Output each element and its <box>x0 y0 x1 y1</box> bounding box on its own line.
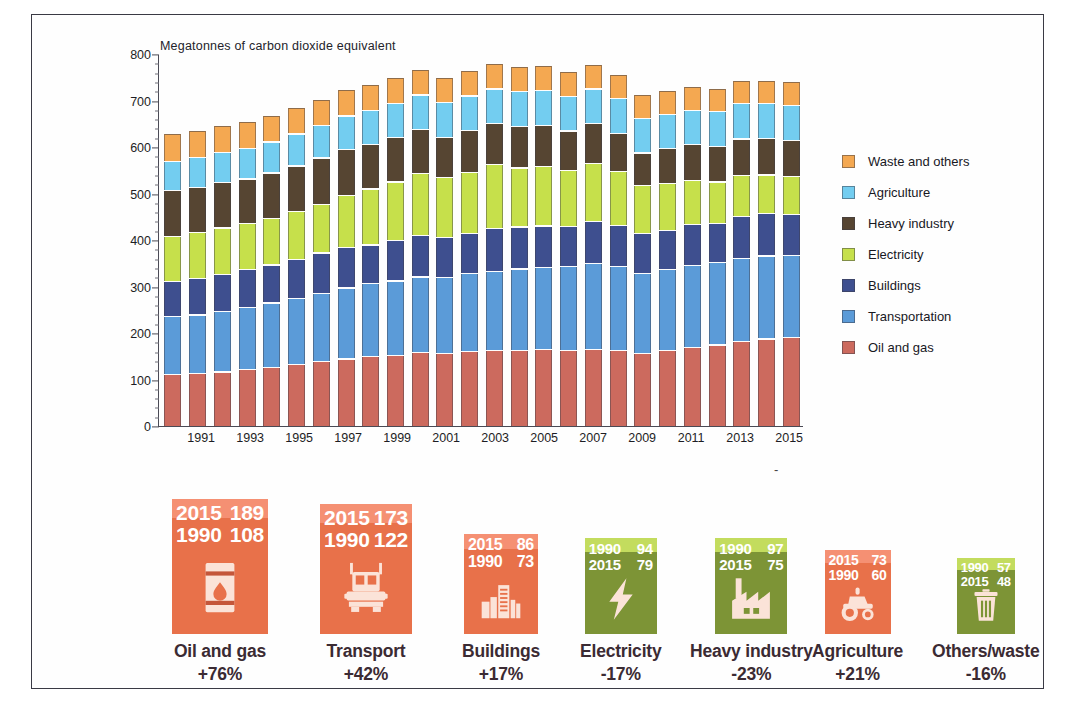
y-tick-label: 200 <box>130 327 151 341</box>
bar-2004[interactable] <box>511 67 528 426</box>
bar-1991[interactable] <box>189 131 206 425</box>
y-tick-label: 500 <box>130 188 151 202</box>
bar-segment <box>511 169 528 227</box>
bar-segment <box>684 87 701 110</box>
bar-segment <box>659 91 676 114</box>
bar-segment <box>338 196 355 247</box>
bar-segment <box>239 149 256 178</box>
bar-segment <box>659 149 676 183</box>
sector-card[interactable]: 201586199073 Buildings+17% <box>462 534 540 685</box>
bar-2012[interactable] <box>709 89 726 426</box>
legend-item[interactable]: Buildings <box>842 270 1042 301</box>
tile-value-row: 199073 <box>468 554 534 571</box>
bar-1997[interactable] <box>338 90 355 425</box>
sector-card-name: Oil and gas <box>174 641 266 662</box>
bar-segment <box>239 270 256 307</box>
legend-label: Buildings <box>868 278 921 293</box>
buildings-icon <box>478 572 524 628</box>
bar-2006[interactable] <box>560 72 577 426</box>
bar-segment <box>387 138 404 181</box>
sector-card[interactable]: 20151891990108 Oil and gas+76% <box>172 499 268 685</box>
legend-label: Waste and others <box>868 154 969 169</box>
bar-segment <box>634 186 651 233</box>
bar-2003[interactable] <box>486 64 503 425</box>
tile-year: 2015 <box>324 507 370 529</box>
y-minor-tick <box>155 110 159 111</box>
sector-card[interactable]: 199097201575 Heavy industry-23% <box>690 538 813 685</box>
bar-1993[interactable] <box>239 122 256 425</box>
x-axis-labels: 1991199319951997199920012003200520072009… <box>159 431 804 453</box>
y-tick-label: 800 <box>130 48 151 62</box>
tile-value-rows: 199097201575 <box>719 541 783 572</box>
bar-2010[interactable] <box>659 91 676 425</box>
legend-swatch-icon <box>842 217 855 230</box>
bar-2008[interactable] <box>610 75 627 426</box>
x-tick-label-2001: 2001 <box>432 431 460 445</box>
sector-card[interactable]: 20151731990122 Transport+42% <box>320 504 412 685</box>
bar-segment <box>164 317 181 374</box>
bar-2007[interactable] <box>585 65 602 426</box>
bar-2009[interactable] <box>634 95 651 425</box>
sector-tile: 201586199073 <box>464 534 538 634</box>
bar-segment <box>313 362 330 425</box>
bar-2014[interactable] <box>758 81 775 426</box>
bar-segment <box>709 263 726 344</box>
bar-1990[interactable] <box>164 134 181 425</box>
bar-segment <box>486 272 503 350</box>
bar-2001[interactable] <box>436 78 453 426</box>
sector-card[interactable]: 199094201579Electricity-17% <box>580 538 661 685</box>
bar-2002[interactable] <box>461 71 478 425</box>
bar-2005[interactable] <box>535 66 552 426</box>
bar-1992[interactable] <box>214 126 231 426</box>
legend-item[interactable]: Waste and others <box>842 146 1042 177</box>
sector-tile: 20151891990108 <box>172 499 268 634</box>
bar-segment <box>288 135 305 166</box>
tile-year: 1990 <box>589 541 621 557</box>
bar-segment <box>783 177 800 214</box>
bar-2000[interactable] <box>412 70 429 426</box>
legend-item[interactable]: Oil and gas <box>842 332 1042 363</box>
tile-year: 2015 <box>829 553 859 568</box>
sector-card-change: +76% <box>198 664 242 685</box>
y-minor-tick <box>155 296 159 297</box>
sector-tile: 199097201575 <box>715 538 787 634</box>
chart-title: Megatonnes of carbon dioxide equivalent <box>160 39 396 53</box>
bar-segment <box>164 162 181 190</box>
bar-2015[interactable] <box>783 82 800 425</box>
tile-value: 79 <box>637 557 653 573</box>
bar-segment <box>338 248 355 287</box>
bar-segment <box>758 257 775 339</box>
tile-value-row: 201586 <box>468 537 534 554</box>
sector-card[interactable]: 199057201548 Others/waste-16% <box>932 558 1040 685</box>
bar-segment <box>412 353 429 426</box>
x-tick-label-2005: 2005 <box>530 431 558 445</box>
bar-segment <box>288 260 305 298</box>
bar-1996[interactable] <box>313 100 330 426</box>
bar-2011[interactable] <box>684 87 701 426</box>
bar-1999[interactable] <box>387 78 404 425</box>
legend-item[interactable]: Electricity <box>842 239 1042 270</box>
sector-card-name: Others/waste <box>932 641 1040 662</box>
bar-segment <box>461 97 478 130</box>
bar-2013[interactable] <box>733 81 750 426</box>
bar-1998[interactable] <box>362 85 379 425</box>
bar-segment <box>239 122 256 148</box>
bar-segment <box>214 153 231 182</box>
y-tick-label: 700 <box>130 95 151 109</box>
tile-year: 1990 <box>324 529 370 551</box>
y-tick-label: 100 <box>130 374 151 388</box>
sector-card[interactable]: 201573199060 Agriculture+21% <box>812 550 903 685</box>
tile-year: 2015 <box>176 502 222 524</box>
x-tick-label-1993: 1993 <box>236 431 264 445</box>
bar-segment <box>610 226 627 266</box>
bar-segment <box>362 145 379 189</box>
legend-item[interactable]: Agriculture <box>842 177 1042 208</box>
bar-segment <box>263 174 280 218</box>
legend-item[interactable]: Heavy industry <box>842 208 1042 239</box>
bar-1994[interactable] <box>263 116 280 426</box>
y-minor-tick <box>155 268 159 269</box>
bar-segment <box>387 183 404 241</box>
x-tick-label-2009: 2009 <box>628 431 656 445</box>
bar-1995[interactable] <box>288 108 305 426</box>
legend-item[interactable]: Transportation <box>842 301 1042 332</box>
